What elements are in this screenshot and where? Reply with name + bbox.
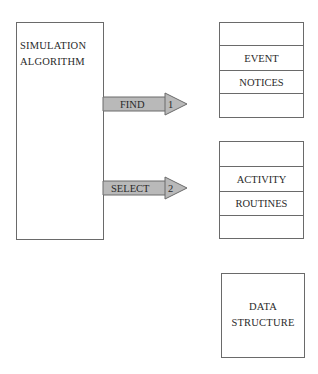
activity-routines-row-empty-bottom	[220, 215, 303, 238]
data-structure-line2: STRUCTURE	[222, 317, 304, 328]
select-arrow-number: 2	[168, 183, 173, 194]
data-structure-line1: DATA	[222, 301, 304, 312]
find-arrow: FIND 1	[103, 93, 187, 115]
select-arrow: SELECT 2	[103, 177, 187, 199]
activity-routines-box: ACTIVITY ROUTINES	[219, 141, 304, 239]
select-arrow-label: SELECT	[111, 183, 150, 194]
activity-routines-row-empty-top	[220, 142, 303, 166]
activity-routines-row-activity: ACTIVITY	[220, 166, 303, 191]
event-notices-row-notices: NOTICES	[220, 70, 303, 93]
event-notices-row-empty-top	[220, 23, 303, 45]
event-notices-box: EVENT NOTICES	[219, 22, 304, 118]
event-notices-row-empty-bottom	[220, 93, 303, 117]
find-arrow-number: 1	[168, 99, 173, 110]
data-structure-box: DATA STRUCTURE	[221, 273, 305, 358]
event-notices-row-event: EVENT	[220, 45, 303, 70]
find-arrow-label: FIND	[120, 99, 145, 110]
activity-routines-row-routines: ROUTINES	[220, 191, 303, 215]
